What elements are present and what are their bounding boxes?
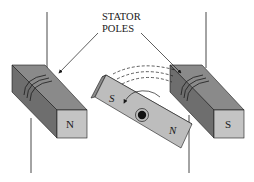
right-pole-label: S [225,118,231,130]
callout-arrow-right [141,33,181,73]
left-stator-pole: N [12,65,87,138]
left-pole-label: N [66,118,74,130]
stator-rotor-diagram: N S S N STATOR POLES [0,0,254,182]
rotor-north-label: N [168,124,177,136]
callout-line-1: STATOR [102,11,141,22]
magnetic-flux-lines [113,66,175,84]
callout-arrow-left [59,33,98,73]
stator-poles-callout: STATOR POLES [59,11,181,73]
rotor-south-label: S [109,92,115,104]
callout-line-2: POLES [102,23,134,34]
rotor-shaft [138,111,146,119]
